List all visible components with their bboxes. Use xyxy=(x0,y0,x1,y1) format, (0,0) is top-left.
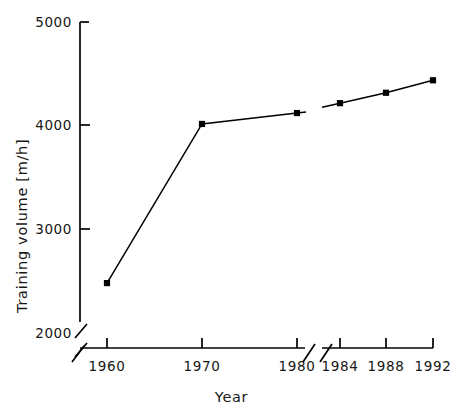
chart-plot-area xyxy=(0,0,463,414)
x-tick-label-1992: 1992 xyxy=(400,358,463,374)
data-series-training-volume xyxy=(104,77,436,286)
data-point-1960 xyxy=(104,280,110,286)
data-point-1992 xyxy=(430,77,436,83)
x-axis-title: Year xyxy=(0,389,463,405)
x-tick-label-1970: 1970 xyxy=(169,358,235,374)
y-axis-title: Training volume [m/h] xyxy=(14,13,30,313)
series-line-segment-1 xyxy=(107,113,297,283)
x-tick-label-1960: 1960 xyxy=(74,358,140,374)
data-point-1980 xyxy=(294,110,300,116)
data-point-1984 xyxy=(337,100,343,106)
data-point-1970 xyxy=(199,121,205,127)
data-point-1988 xyxy=(383,90,389,96)
y-tick-label-2000: 2000 xyxy=(10,325,72,341)
chart-figure: 5000 4000 3000 2000 1960 1970 1980 1984 … xyxy=(0,0,463,414)
y-axis-break-slash-upper xyxy=(75,324,87,338)
